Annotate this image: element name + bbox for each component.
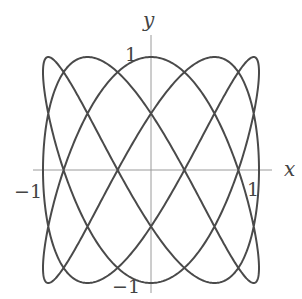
y-tick-top: 1 — [125, 43, 137, 65]
x-tick-left: −1 — [14, 180, 42, 202]
lissajous-plot: x y 1 −1 −1 1 — [0, 0, 302, 299]
y-tick-bottom: −1 — [112, 275, 140, 297]
y-axis-label: y — [142, 8, 155, 32]
x-axis-label: x — [284, 157, 295, 181]
x-tick-right: 1 — [247, 178, 259, 200]
